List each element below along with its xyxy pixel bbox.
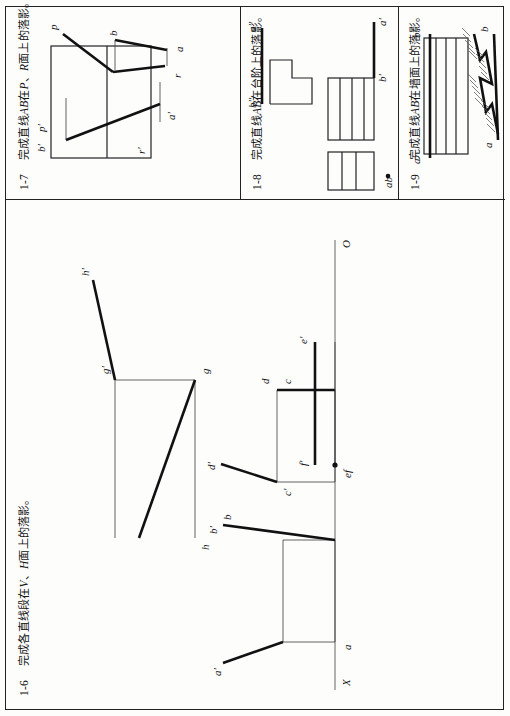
panel-1-9: 1-9 完成直线AB在墙面上的落影。 b' a' <box>398 6 505 200</box>
panel-1-7: 1-7 完成直线AB在P、R面上的落影。 b' p' r' a' <box>5 6 240 200</box>
label-b-19: b <box>478 26 490 32</box>
label-x: X <box>340 678 352 687</box>
label-d-prime-16: d' <box>205 462 217 471</box>
label-b-17: b <box>107 30 119 36</box>
label-r-17: r <box>171 73 183 78</box>
label-b-prime-16: b' <box>207 526 219 535</box>
label-f-prime-16: f' <box>297 460 309 466</box>
label-g-prime-16: g' <box>99 366 111 375</box>
segment-c-prime-d-prime <box>221 464 277 482</box>
label-b-16: b <box>221 514 233 520</box>
segment-a-prime-b-prime <box>223 642 283 663</box>
label-b-dbl-prime-18: b'' <box>246 97 258 108</box>
label-a-dbl-prime-18: a'' <box>246 21 258 32</box>
plan-p-edge <box>63 34 113 72</box>
panel-1-8: 1-8 完成直线AB在台阶上的落影。 a'' b'' a' b' <box>240 6 398 200</box>
label-a-prime-18: a' <box>376 18 388 27</box>
label-a-17: a <box>173 46 185 52</box>
label-a-prime-19: a' <box>410 156 422 165</box>
label-c-prime-16: c' <box>281 488 293 496</box>
panel-1-8-drawing: a'' b'' a' b' ab <box>240 6 398 200</box>
segment-a-b <box>223 525 335 540</box>
segment-a-b-17 <box>115 40 167 50</box>
stair-plan-rect <box>328 152 374 190</box>
label-ab-18: ab <box>382 177 394 189</box>
label-o: O <box>340 240 352 248</box>
point-ef-dot <box>332 462 337 467</box>
label-a-prime-16: a' <box>211 668 223 677</box>
label-r-prime-17: r' <box>135 147 147 154</box>
panel-1-6: 1-6 完成各直线段在V、H面上的落影。 X O a' b' a <box>5 200 505 710</box>
segment-a-prime-b-prime-17 <box>66 104 160 140</box>
label-h-prime-16: h' <box>79 268 91 277</box>
plan-fold-edge <box>113 66 165 72</box>
label-e-prime-16: e' <box>297 336 309 344</box>
panel-1-9-drawing: b' a' <box>398 6 505 200</box>
label-b-prime-19: b' <box>410 30 422 39</box>
label-b-prime-17: b' <box>35 144 47 153</box>
panel-1-7-drawing: b' p' r' a' p b r a <box>5 6 240 200</box>
label-ef-16: ef <box>341 468 353 478</box>
label-p-prime-17: p' <box>35 124 47 134</box>
drawing-sheet: 1-6 完成各直线段在V、H面上的落影。 X O a' b' a <box>0 0 510 716</box>
label-b-prime-18: b' <box>376 74 388 83</box>
label-h-16: h <box>199 544 211 550</box>
label-a-19: a <box>482 142 494 148</box>
label-a-prime-17: a' <box>165 112 177 121</box>
segment-g-prime-h-prime <box>93 280 115 380</box>
label-d-16: d <box>259 378 271 384</box>
stair-side-profile <box>270 60 312 104</box>
label-g-16: g <box>199 368 211 374</box>
segment-g-h <box>139 380 195 538</box>
worksheet-page: 1-6 完成各直线段在V、H面上的落影。 X O a' b' a <box>0 0 510 716</box>
label-p-17: p <box>47 24 59 31</box>
label-c-16: c <box>281 379 293 384</box>
stair-front-rect <box>328 78 374 140</box>
panel-1-6-drawing: X O a' b' a b c <box>5 200 505 710</box>
label-a-16: a <box>341 644 353 650</box>
